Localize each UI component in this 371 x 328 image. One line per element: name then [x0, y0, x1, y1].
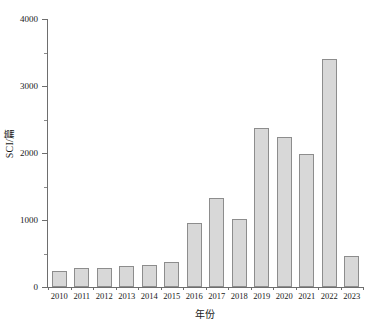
y-minor-tick-mark — [44, 254, 47, 255]
bar[interactable] — [344, 256, 359, 287]
y-axis-title: SCI/篇 — [0, 0, 18, 287]
x-tick-mark — [183, 287, 184, 290]
bar[interactable] — [299, 154, 314, 287]
x-tick-mark — [318, 287, 319, 290]
y-tick-mark — [42, 19, 47, 20]
bar[interactable] — [74, 268, 89, 287]
x-tick-label: 2012 — [93, 291, 116, 301]
plot-area — [48, 19, 363, 287]
bar-slot — [119, 19, 134, 287]
x-tick-label: 2013 — [116, 291, 139, 301]
x-tick-mark — [138, 287, 139, 290]
bar[interactable] — [322, 59, 337, 287]
bar[interactable] — [164, 262, 179, 287]
x-tick-mark — [363, 287, 364, 290]
y-tick-mark — [42, 86, 47, 87]
x-tick-label: 2018 — [228, 291, 251, 301]
y-minor-tick-mark — [44, 120, 47, 121]
bar[interactable] — [254, 128, 269, 287]
x-tick-label: 2010 — [48, 291, 71, 301]
y-tick-label: 4000 — [4, 15, 38, 24]
x-tick-label: 2019 — [251, 291, 274, 301]
x-tick-mark — [48, 287, 49, 290]
y-minor-tick-mark — [44, 187, 47, 188]
x-tick-label: 2011 — [71, 291, 94, 301]
x-axis-title: 年份 — [47, 306, 363, 321]
bar-slot — [232, 19, 247, 287]
x-tick-label: 2021 — [296, 291, 319, 301]
x-tick-label: 2022 — [318, 291, 341, 301]
x-tick-mark — [341, 287, 342, 290]
bar-slot — [344, 19, 359, 287]
bar-slot — [74, 19, 89, 287]
x-tick-mark — [93, 287, 94, 290]
bar-slot — [164, 19, 179, 287]
bar[interactable] — [277, 137, 292, 287]
x-tick-mark — [206, 287, 207, 290]
bar[interactable] — [142, 265, 157, 287]
y-tick-label: 3000 — [4, 82, 38, 91]
bar-chart: SCI/篇 01000200030004000 2010201120122013… — [0, 0, 371, 328]
x-tick-label: 2023 — [341, 291, 364, 301]
y-tick-label: 2000 — [4, 149, 38, 158]
bar-slot — [322, 19, 337, 287]
x-tick-mark — [228, 287, 229, 290]
x-tick-mark — [116, 287, 117, 290]
bar-slot — [52, 19, 67, 287]
x-tick-label: 2015 — [161, 291, 184, 301]
y-tick-mark — [42, 220, 47, 221]
bar-slot — [254, 19, 269, 287]
bar-slot — [142, 19, 157, 287]
bar-slot — [277, 19, 292, 287]
x-tick-mark — [251, 287, 252, 290]
x-tick-mark — [273, 287, 274, 290]
bar-slot — [187, 19, 202, 287]
bar-slot — [97, 19, 112, 287]
y-tick-mark — [42, 153, 47, 154]
y-tick-label: 1000 — [4, 216, 38, 225]
bar-slot — [299, 19, 314, 287]
bar-slot — [209, 19, 224, 287]
x-tick-mark — [161, 287, 162, 290]
y-minor-tick-mark — [44, 53, 47, 54]
bar[interactable] — [97, 268, 112, 287]
x-tick-mark — [71, 287, 72, 290]
bar[interactable] — [187, 223, 202, 287]
bar[interactable] — [209, 198, 224, 287]
x-tick-label: 2020 — [273, 291, 296, 301]
bar[interactable] — [52, 271, 67, 287]
x-tick-label: 2016 — [183, 291, 206, 301]
bar[interactable] — [119, 266, 134, 287]
x-tick-label: 2014 — [138, 291, 161, 301]
y-tick-label: 0 — [4, 283, 38, 292]
bar[interactable] — [232, 219, 247, 287]
x-tick-label: 2017 — [206, 291, 229, 301]
x-tick-mark — [296, 287, 297, 290]
y-tick-mark — [42, 287, 47, 288]
